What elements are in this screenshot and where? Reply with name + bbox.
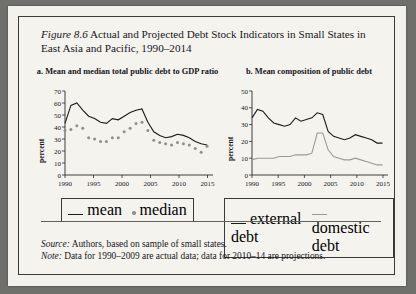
svg-text:20: 20 [54, 147, 62, 155]
panel-b-y-ticks: 0 10 20 30 40 50 [241, 87, 252, 179]
panel-b-ylabel: percent [226, 136, 235, 160]
median-point [75, 124, 78, 127]
svg-text:1990: 1990 [58, 180, 73, 188]
svg-text:2015: 2015 [376, 180, 391, 188]
median-point [176, 141, 179, 144]
figure-number: Figure 8.6 [41, 28, 88, 40]
median-point [140, 120, 143, 123]
median-point [87, 136, 90, 139]
median-point [170, 143, 173, 146]
data-note: Note: Data for 1990–2009 are actual data… [41, 250, 381, 262]
svg-text:1995: 1995 [87, 180, 102, 188]
panel-a-y-ticks: 0 10 20 30 40 50 60 70 [54, 87, 65, 179]
svg-text:1990: 1990 [245, 180, 260, 188]
svg-text:2010: 2010 [172, 180, 187, 188]
median-point [111, 136, 114, 139]
median-point [158, 141, 161, 144]
svg-text:50: 50 [241, 87, 249, 95]
svg-text:10: 10 [241, 154, 249, 162]
median-point [206, 144, 209, 147]
panel-b: b. Mean composition of public debt perce… [224, 67, 394, 258]
panel-a-ylabel: percent [37, 138, 46, 162]
note-text: Data for 1990–2009 are actual data; data… [62, 251, 325, 261]
median-point [129, 126, 132, 129]
source-text: Authors, based on sample of small states… [70, 239, 227, 249]
median-point [182, 142, 185, 145]
svg-text:2010: 2010 [350, 180, 365, 188]
panel-a-legend-row: mean median [35, 198, 220, 222]
svg-text:70: 70 [54, 87, 62, 95]
median-point [146, 129, 149, 132]
median-point [200, 150, 203, 153]
figure-title-text: Actual and Projected Debt Stock Indicato… [41, 28, 366, 54]
svg-text:0: 0 [58, 171, 62, 179]
median-point [188, 143, 191, 146]
median-point [135, 121, 138, 124]
svg-text:0: 0 [245, 171, 249, 179]
legend-item-median: median [132, 201, 187, 219]
svg-text:2005: 2005 [324, 180, 339, 188]
panel-b-x-ticks: 1990 1995 2000 2005 2010 2015 [245, 175, 391, 188]
svg-text:10: 10 [54, 159, 62, 167]
panel-b-title: b. Mean composition of public debt [224, 67, 394, 78]
median-point [81, 126, 84, 129]
panel-a-svg: 0 10 20 30 40 50 60 70 [35, 83, 220, 195]
median-point [69, 127, 72, 130]
panel-b-svg: 0 10 20 30 40 50 [224, 83, 394, 195]
median-point [194, 147, 197, 150]
svg-text:2000: 2000 [297, 180, 312, 188]
median-point [105, 139, 108, 142]
median-point [64, 129, 67, 132]
panel-a-legend: mean median [61, 198, 193, 222]
svg-text:2015: 2015 [201, 180, 216, 188]
panel-b-external-debt-line [252, 109, 383, 143]
panel-a-x-ticks: 1990 1995 2000 2005 2010 2015 [58, 175, 215, 188]
panel-a-title: a. Mean and median total public debt to … [35, 67, 220, 78]
panel-b-domestic-debt-line [252, 133, 383, 165]
legend-label-median: median [140, 201, 187, 218]
median-point [123, 130, 126, 133]
svg-text:2000: 2000 [115, 180, 130, 188]
median-point [99, 139, 102, 142]
note-label: Note: [41, 251, 62, 261]
svg-text:50: 50 [54, 111, 62, 119]
figure-frame: Figure 8.6 Actual and Projected Debt Sto… [18, 16, 395, 275]
figure-notes: Source: Authors, based on sample of smal… [41, 238, 381, 262]
external-debt-line-swatch-icon [231, 223, 246, 224]
median-point [93, 137, 96, 140]
svg-text:20: 20 [241, 137, 249, 145]
panel-a: a. Mean and median total public debt to … [35, 67, 220, 222]
legend-label-mean: mean [87, 201, 122, 218]
panel-a-plot: percent 0 10 20 30 40 [35, 83, 220, 195]
mean-line-swatch-icon [68, 214, 83, 215]
svg-text:60: 60 [54, 99, 62, 107]
panel-b-plot: percent 0 10 20 30 40 [224, 83, 394, 195]
svg-text:40: 40 [241, 104, 249, 112]
median-point [164, 142, 167, 145]
median-point [152, 138, 155, 141]
domestic-debt-line-swatch-icon [312, 214, 327, 215]
source-note: Source: Authors, based on sample of smal… [41, 238, 381, 250]
notes-divider [41, 221, 381, 222]
svg-text:2005: 2005 [144, 180, 159, 188]
svg-text:30: 30 [54, 135, 62, 143]
figure-title: Figure 8.6 Actual and Projected Debt Sto… [41, 27, 381, 55]
page-sheet: Figure 8.6 Actual and Projected Debt Sto… [8, 6, 406, 286]
source-label: Source: [41, 239, 70, 249]
median-dot-swatch-icon [132, 211, 136, 215]
svg-text:1995: 1995 [271, 180, 286, 188]
svg-text:30: 30 [241, 121, 249, 129]
svg-text:40: 40 [54, 123, 62, 131]
median-point [117, 136, 120, 139]
legend-item-mean: mean [68, 201, 122, 219]
